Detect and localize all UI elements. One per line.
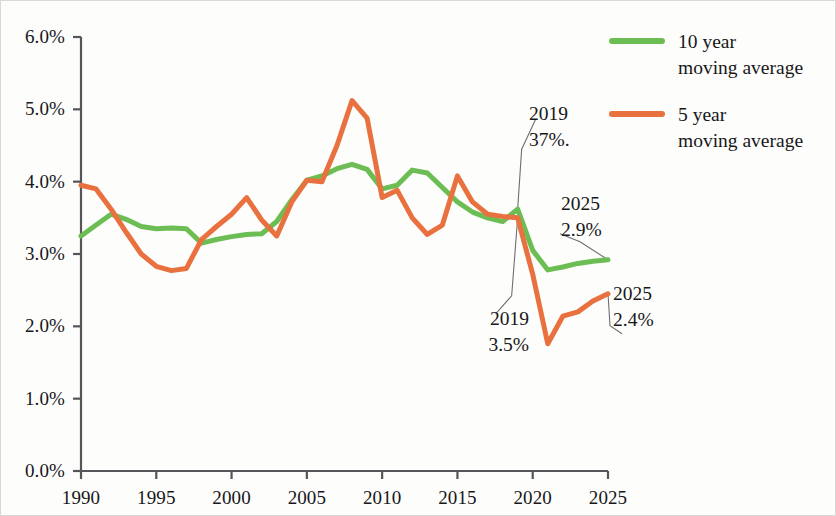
chart-legend: 10 year moving average 5 year moving ave… [609,29,827,176]
y-tick-label: 6.0% [1,26,65,48]
legend-label-10-year-line1: 10 year [678,29,803,55]
x-tick-label: 2020 [514,487,552,509]
y-tick-label: 1.0% [1,388,65,410]
y-tick-label: 0.0% [1,460,65,482]
legend-entry-10-year: 10 year moving average [609,29,827,80]
annotation-orange-2025-value: 2.4% [613,307,654,333]
x-tick-label: 1990 [62,487,100,509]
annotation-orange-2019-year: 2019 [401,306,529,332]
annotation-green-2019-value: 37%. [529,127,570,153]
y-axis-ticks [73,37,81,471]
annotation-orange-2019: 2019 3.5% [401,306,529,359]
legend-label-10-year: 10 year moving average [678,29,803,80]
x-tick-label: 2025 [589,487,627,509]
legend-label-10-year-line2: moving average [678,55,803,81]
legend-entry-5-year: 5 year moving average [609,102,827,153]
annotation-green-2025-year: 2025 [561,191,602,217]
x-tick-label: 2005 [288,487,326,509]
x-axis-ticks [81,471,608,479]
y-tick-label: 4.0% [1,171,65,193]
x-tick-label: 1995 [137,487,175,509]
leader-line-orange-2019 [496,218,518,314]
annotation-orange-2019-value: 3.5% [401,332,529,358]
y-tick-label: 3.0% [1,243,65,265]
annotation-green-2025-value: 2.9% [561,217,602,243]
legend-label-5-year-line1: 5 year [678,102,803,128]
x-tick-label: 2010 [363,487,401,509]
legend-swatch-10-year [609,38,665,44]
legend-label-5-year-line2: moving average [678,128,803,154]
annotation-orange-2025-year: 2025 [613,281,654,307]
annotation-orange-2025: 2025 2.4% [613,281,654,334]
x-tick-label: 2015 [438,487,476,509]
x-tick-label: 2000 [212,487,250,509]
chart-figure: 0.0%1.0%2.0%3.0%4.0%5.0%6.0% 19901995200… [0,0,836,516]
annotation-green-2025: 2025 2.9% [561,191,602,244]
y-tick-label: 5.0% [1,98,65,120]
legend-swatch-5-year [609,111,665,117]
annotation-green-2019-year: 2019 [529,101,570,127]
legend-label-5-year: 5 year moving average [678,102,803,153]
annotation-green-2019: 2019 37%. [529,101,570,154]
y-tick-label: 2.0% [1,315,65,337]
